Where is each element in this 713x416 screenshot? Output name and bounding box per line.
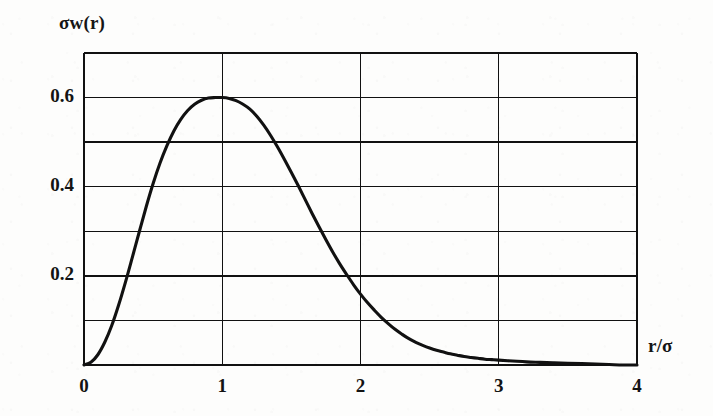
y-tick-label: 0.6 xyxy=(26,85,74,107)
gridlines-group xyxy=(84,53,637,365)
x-tick-label: 4 xyxy=(617,375,657,397)
y-tick-label: 0.2 xyxy=(26,263,74,285)
x-tick-label: 2 xyxy=(341,375,381,397)
figure-canvas: σw(r) r/σ 01234 0.20.40.6 xyxy=(0,0,713,416)
x-tick-label: 0 xyxy=(64,375,104,397)
y-tick-label: 0.4 xyxy=(26,174,74,196)
x-axis-title: r/σ xyxy=(648,335,673,357)
plot-area xyxy=(0,0,713,416)
x-tick-label: 1 xyxy=(202,375,242,397)
x-tick-label: 3 xyxy=(479,375,519,397)
y-axis-title: σw(r) xyxy=(59,12,105,34)
